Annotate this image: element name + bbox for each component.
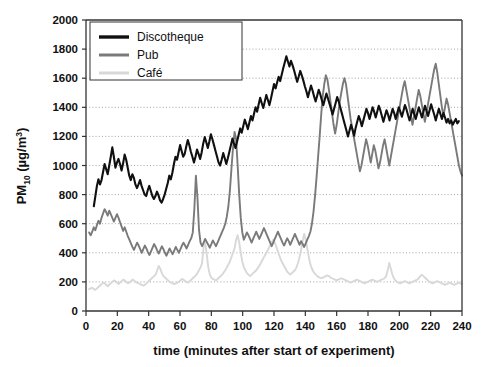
y-tick-label-1600: 1600 — [52, 72, 78, 84]
legend: DiscothequePubCafé — [90, 22, 242, 80]
x-tick-label-100: 100 — [233, 320, 252, 332]
x-axis-title: time (minutes after start of experiment) — [153, 343, 394, 358]
x-tick-label-200: 200 — [390, 320, 409, 332]
x-tick-label-180: 180 — [358, 320, 377, 332]
y-axis-tick-labels: 0200400600800100012001400160018002000 — [52, 14, 78, 317]
y-tick-label-200: 200 — [59, 276, 78, 288]
x-tick-label-220: 220 — [421, 320, 440, 332]
x-axis-ticks — [86, 311, 462, 316]
legend-label-caf: Café — [137, 66, 163, 80]
y-axis-title-subscript: 10 — [22, 175, 32, 185]
y-tick-label-1000: 1000 — [52, 160, 78, 172]
y-tick-label-400: 400 — [59, 247, 78, 259]
y-tick-label-2000: 2000 — [52, 14, 78, 26]
y-tick-label-600: 600 — [59, 218, 78, 230]
y-tick-label-0: 0 — [72, 305, 78, 317]
x-tick-label-20: 20 — [111, 320, 124, 332]
y-axis-title-unit-pre: (µg/m — [14, 137, 29, 176]
chart-figure: 0200400600800100012001400160018002000 02… — [0, 0, 482, 367]
y-tick-label-1400: 1400 — [52, 101, 78, 113]
y-axis-title: PM10 (µg/m3) — [14, 128, 32, 205]
y-axis-title-unit-post: ) — [14, 128, 29, 132]
x-tick-label-40: 40 — [142, 320, 155, 332]
x-tick-label-160: 160 — [327, 320, 346, 332]
x-tick-label-80: 80 — [205, 320, 218, 332]
x-axis-tick-labels: 020406080100120140160180200220240 — [83, 320, 472, 332]
svg-text:PM10 (µg/m3): PM10 (µg/m3) — [14, 128, 32, 205]
x-tick-label-140: 140 — [296, 320, 315, 332]
x-tick-label-0: 0 — [83, 320, 89, 332]
x-tick-label-240: 240 — [452, 320, 471, 332]
y-tick-label-1200: 1200 — [52, 130, 78, 142]
legend-label-pub: Pub — [137, 48, 159, 62]
pm10-timeseries-chart: 0200400600800100012001400160018002000 02… — [0, 0, 482, 367]
y-axis-title-main: PM — [14, 185, 29, 205]
y-tick-label-1800: 1800 — [52, 43, 78, 55]
x-tick-label-120: 120 — [264, 320, 283, 332]
x-tick-label-60: 60 — [174, 320, 187, 332]
y-tick-label-800: 800 — [59, 189, 78, 201]
legend-label-discotheque: Discotheque — [137, 30, 204, 44]
